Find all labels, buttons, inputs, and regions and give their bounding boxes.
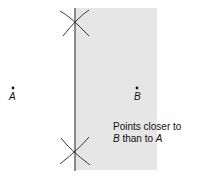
shaded-region [75, 8, 157, 170]
region-label-b: B [113, 133, 120, 144]
point-a-label: A [9, 92, 16, 102]
region-label-mid: than to [120, 133, 156, 144]
region-label-a: A [156, 133, 163, 144]
point-a-dot [12, 87, 15, 90]
point-b-dot [136, 87, 139, 90]
bisector-diagram [0, 0, 197, 184]
region-label-line1: Points closer to [113, 121, 181, 133]
region-label-line2: B than to A [113, 133, 181, 145]
region-label: Points closer to B than to A [113, 121, 181, 145]
point-b-label: B [134, 92, 141, 102]
